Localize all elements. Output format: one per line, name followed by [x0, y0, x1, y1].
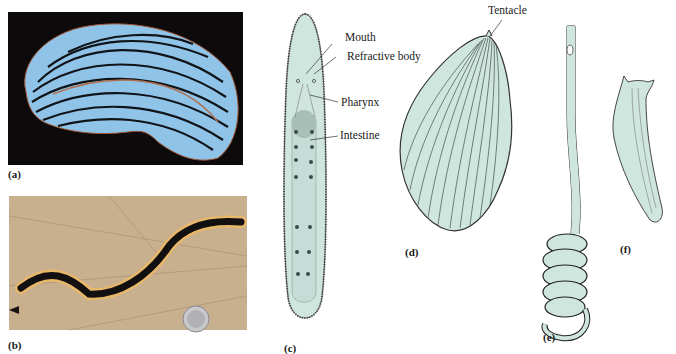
panel-label-a: (a) — [8, 168, 21, 180]
panel-label-f: (f) — [620, 243, 631, 255]
photo-panel-b — [9, 196, 247, 330]
panel-label-e: (e) — [543, 331, 555, 343]
panel-label-d: (d) — [405, 246, 418, 258]
panel-label-c: (c) — [284, 342, 296, 354]
coiled-worm-drawing-e — [537, 24, 607, 344]
blue-flatworm-image — [8, 12, 243, 165]
label-pharynx: Pharynx — [341, 96, 379, 108]
label-intestine: Intestine — [340, 129, 380, 141]
flatworm-drawing-f — [610, 68, 670, 228]
panel-label-b: (b) — [8, 339, 21, 351]
tentacle-leader — [488, 18, 508, 38]
striped-land-planarian-image — [9, 196, 247, 330]
label-mouth: Mouth — [345, 31, 376, 43]
flatworm-drawing-d — [398, 30, 518, 240]
photo-panel-a — [8, 12, 243, 165]
label-tentacle: Tentacle — [488, 4, 527, 16]
